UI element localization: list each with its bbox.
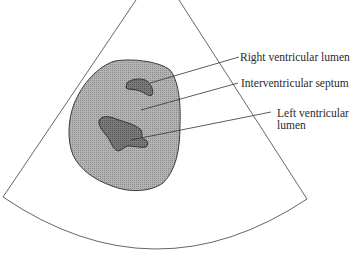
label-right-ventricular-lumen: Right ventricular lumen: [240, 51, 350, 63]
label-left-ventricular-lumen-line1: Left ventricular: [277, 107, 349, 119]
label-interventricular-septum: Interventricular septum: [241, 77, 349, 89]
label-left-ventricular-lumen-line2: lumen: [277, 119, 306, 131]
